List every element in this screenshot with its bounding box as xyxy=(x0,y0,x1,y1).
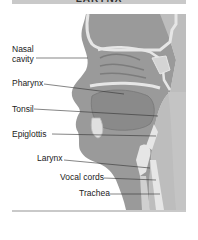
bottom-divider xyxy=(12,210,186,212)
label-nasal-cavity: Nasal cavity xyxy=(12,44,34,64)
label-trachea: Trachea xyxy=(79,188,110,198)
label-nasal-line1: Nasal xyxy=(12,44,34,54)
label-larynx: Larynx xyxy=(37,153,63,163)
label-pharynx: Pharynx xyxy=(12,78,43,88)
label-vocal-cords: Vocal cords xyxy=(60,172,104,182)
label-epiglottis: Epiglottis xyxy=(12,129,47,139)
label-tonsil: Tonsil xyxy=(12,104,34,114)
label-nasal-line2: cavity xyxy=(12,54,34,64)
